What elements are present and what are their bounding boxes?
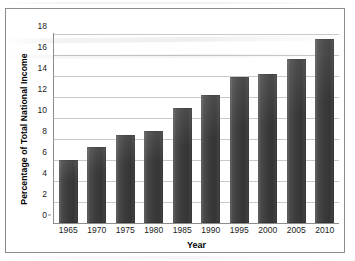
y-tick-label: 10 — [38, 105, 47, 115]
y-tick-label: 8 — [42, 126, 47, 136]
bar — [144, 131, 163, 223]
x-tick-label: 1965 — [59, 225, 78, 235]
scan-streak — [0, 2, 355, 4]
chart-frame: Percentage of Total National Income 0246… — [5, 8, 345, 253]
x-tick-label: 2000 — [258, 225, 277, 235]
bar — [230, 77, 249, 223]
x-tick-label: 2005 — [287, 225, 306, 235]
x-tick-label: 1990 — [201, 225, 220, 235]
y-tick-label: 0 — [42, 210, 47, 220]
x-tick-label: 1970 — [87, 225, 106, 235]
y-tick-label: 4 — [42, 168, 47, 178]
x-tick-label: 2010 — [315, 225, 334, 235]
y-tick-label: 18 — [38, 21, 47, 31]
x-axis-ticks: 1965197019751980198519901995200020052010 — [54, 225, 339, 241]
y-axis-line — [53, 33, 54, 224]
y-tick-label: 12 — [38, 84, 47, 94]
scan-streak — [0, 256, 355, 259]
y-axis-ticks: 024681012141618 — [6, 9, 54, 248]
bar — [173, 108, 192, 224]
x-tick-label: 1995 — [230, 225, 249, 235]
bar — [87, 147, 106, 223]
x-tick-label: 1975 — [116, 225, 135, 235]
x-tick-label: 1980 — [144, 225, 163, 235]
y-tick-label: 2 — [42, 189, 47, 199]
y-tick-mark — [48, 215, 51, 216]
y-tick-label: 14 — [38, 63, 47, 73]
bar — [258, 74, 277, 223]
gridline — [54, 55, 339, 56]
bar — [116, 135, 135, 223]
y-tick-label: 6 — [42, 147, 47, 157]
y-tick-label: 16 — [38, 42, 47, 52]
axis-baseline — [54, 223, 339, 224]
bar — [59, 160, 78, 223]
plot-area — [54, 34, 339, 223]
bar — [315, 39, 334, 223]
x-tick-label: 1985 — [173, 225, 192, 235]
gridline — [54, 34, 339, 35]
bar — [287, 59, 306, 223]
bar — [201, 95, 220, 223]
x-axis-title: Year — [54, 240, 339, 250]
